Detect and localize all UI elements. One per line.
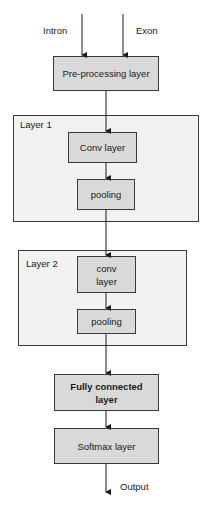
flow-arrows — [0, 0, 206, 508]
